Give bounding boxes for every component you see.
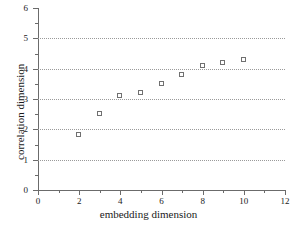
x-axis-tick bbox=[38, 190, 39, 195]
x-axis-tick-label: 8 bbox=[191, 196, 215, 206]
data-point bbox=[179, 72, 184, 77]
x-axis-minor-tick bbox=[59, 190, 60, 193]
x-axis-minor-tick bbox=[182, 190, 183, 193]
x-axis-minor-tick bbox=[100, 190, 101, 193]
data-point bbox=[200, 63, 205, 68]
x-axis-tick-label: 4 bbox=[108, 196, 132, 206]
data-point bbox=[159, 81, 164, 86]
x-axis-tick bbox=[244, 190, 245, 195]
x-axis-tick bbox=[162, 190, 163, 195]
x-axis-title: embedding dimension bbox=[0, 208, 297, 220]
data-point bbox=[97, 111, 102, 116]
y-axis-title: correlation dimension bbox=[14, 64, 26, 160]
x-axis-minor-tick bbox=[141, 190, 142, 193]
y-axis-tick-label: 6 bbox=[6, 3, 28, 13]
x-axis-minor-tick bbox=[223, 190, 224, 193]
x-axis-tick-label: 2 bbox=[67, 196, 91, 206]
y-axis-tick-label: 5 bbox=[6, 33, 28, 43]
x-axis-minor-tick bbox=[264, 190, 265, 193]
x-axis-tick-label: 6 bbox=[150, 196, 174, 206]
plot-area bbox=[38, 8, 285, 190]
x-axis-tick-label: 10 bbox=[232, 196, 256, 206]
y-axis-tick-label: 0 bbox=[6, 185, 28, 195]
data-point bbox=[117, 93, 122, 98]
scatter-chart-figure: 0123456 024681012 embedding dimension co… bbox=[0, 0, 297, 226]
x-axis-tick-label: 12 bbox=[273, 196, 297, 206]
data-point bbox=[220, 60, 225, 65]
data-point bbox=[138, 90, 143, 95]
x-axis-tick-label: 0 bbox=[26, 196, 50, 206]
x-axis-tick bbox=[285, 190, 286, 195]
data-point bbox=[76, 132, 81, 137]
x-axis-tick bbox=[79, 190, 80, 195]
x-axis-tick bbox=[120, 190, 121, 195]
x-axis-tick bbox=[203, 190, 204, 195]
data-point bbox=[241, 57, 246, 62]
